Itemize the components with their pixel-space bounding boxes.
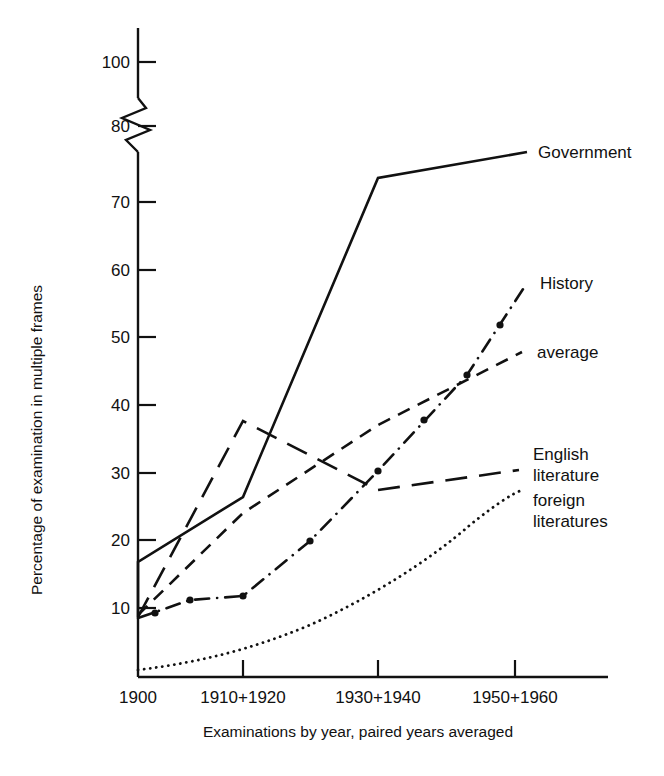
series-english-literature <box>138 421 519 617</box>
x-tick-labels: 1900 1910+1920 1930+1940 1950+1960 <box>119 688 558 707</box>
x-tick-label: 1900 <box>119 688 157 707</box>
series-label-foreign-literatures-line1: foreign <box>533 491 585 510</box>
series-foreign-literatures <box>138 490 522 670</box>
x-tick-label: 1910+1920 <box>200 688 286 707</box>
y-axis-title: Percentage of examination in multiple fr… <box>28 285 45 595</box>
y-tick-label: 30 <box>111 464 130 483</box>
y-tick-label: 70 <box>111 193 130 212</box>
chart-container: Percentage of examination in multiple fr… <box>0 0 664 776</box>
series-label-english-literature-line1: English <box>533 445 589 464</box>
line-chart: Percentage of examination in multiple fr… <box>0 0 664 776</box>
y-tick-labels: 10 20 30 40 50 60 70 80 100 <box>102 53 130 618</box>
x-tick-label: 1950+1960 <box>472 688 558 707</box>
series-average <box>138 352 522 615</box>
x-tick-label: 1930+1940 <box>335 688 421 707</box>
y-tick-label: 80 <box>111 117 130 136</box>
y-tick-label: 100 <box>102 53 130 72</box>
series-label-english-literature-line2: literature <box>533 466 599 485</box>
series-history <box>138 283 527 618</box>
series-history-markers <box>151 321 503 616</box>
series-government <box>138 152 527 617</box>
series-label-foreign-literatures-line2: literatures <box>533 512 608 531</box>
y-tick-label: 20 <box>111 531 130 550</box>
y-tick-label: 10 <box>111 599 130 618</box>
y-tick-label: 40 <box>111 396 130 415</box>
y-ticks <box>138 62 156 608</box>
x-axis-title: Examinations by year, paired years avera… <box>203 723 513 740</box>
series-label-history: History <box>540 274 593 293</box>
y-tick-label: 60 <box>111 261 130 280</box>
y-tick-label: 50 <box>111 328 130 347</box>
x-ticks <box>243 660 515 677</box>
series-label-average: average <box>537 343 598 362</box>
series-label-government: Government <box>538 143 632 162</box>
